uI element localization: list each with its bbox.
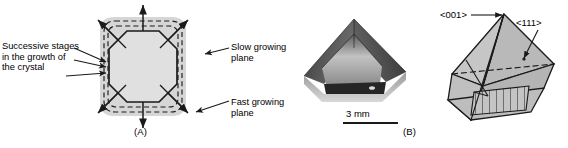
scale-bar-label: 3 mm — [346, 108, 370, 119]
slow-growing-plane-line-2: plane — [231, 53, 286, 64]
direction-label-001: <001> — [440, 9, 467, 20]
direction-label-111: <111> — [516, 17, 542, 28]
direction-111-point — [522, 57, 525, 60]
successive-stages-line-3: the crystal — [2, 62, 79, 73]
panel-c-graphics — [426, 0, 568, 148]
panel-a-growth-schematic: Successive stages in the growth of the c… — [0, 0, 286, 148]
slow-growing-plane-annotation: Slow growing plane — [231, 42, 286, 63]
crystal-growth-figure: Successive stages in the growth of the c… — [0, 0, 568, 148]
crystal-photograph — [294, 14, 414, 110]
slow-growing-plane-line-1: Slow growing — [231, 42, 286, 53]
panel-b-label: (B) — [403, 126, 416, 137]
fast-growing-plane-line-1: Fast growing — [231, 97, 284, 108]
crystal-photo-graphics — [294, 14, 414, 110]
successive-stages-annotation: Successive stages in the growth of the c… — [2, 41, 79, 73]
panel-b-crystal-photo: 3 mm (B) — [286, 0, 426, 148]
fast-growing-plane-line-2: plane — [231, 108, 284, 119]
fast-growing-plane-annotation: Fast growing plane — [231, 97, 284, 118]
panel-a-label: (A) — [134, 126, 147, 137]
successive-stages-line-1: Successive stages — [2, 41, 79, 52]
panel-c-crystal-habit: <001> <111> — [426, 0, 568, 148]
successive-stages-line-2: in the growth of — [2, 52, 79, 63]
slow-plane-leader — [205, 48, 229, 54]
fast-plane-leader — [196, 101, 229, 112]
scale-bar-line — [343, 122, 398, 124]
